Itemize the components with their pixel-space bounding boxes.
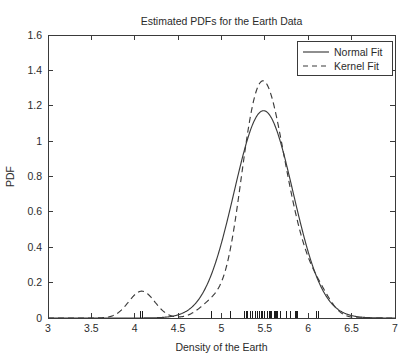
y-tick-label: 0.2 (27, 276, 42, 288)
y-tick-label: 0 (36, 312, 42, 324)
x-tick-label: 5 (219, 322, 225, 334)
y-tick-label: 1.4 (27, 64, 42, 76)
x-tick-label: 4 (132, 322, 138, 334)
legend-label-1: Kernel Fit (334, 60, 379, 72)
y-tick-label: 1.2 (27, 99, 42, 111)
x-tick-label: 3.5 (84, 322, 99, 334)
chart-title: Estimated PDFs for the Earth Data (141, 15, 303, 27)
y-tick-label: 1.6 (27, 29, 42, 41)
y-tick-label: 0.4 (27, 241, 42, 253)
x-tick-label: 5.5 (258, 322, 273, 334)
pdf-plot: 33.544.555.566.5700.20.40.60.811.21.41.6… (0, 0, 416, 361)
x-tick-label: 7 (392, 322, 398, 334)
x-tick-label: 6 (305, 322, 311, 334)
y-tick-label: 1 (36, 135, 42, 147)
y-tick-label: 0.8 (27, 170, 42, 182)
y-tick-label: 0.6 (27, 205, 42, 217)
x-tick-label: 6.5 (344, 322, 359, 334)
y-axis-label: PDF (4, 166, 16, 187)
chart-figure: 33.544.555.566.5700.20.40.60.811.21.41.6… (0, 0, 416, 361)
x-tick-label: 4.5 (171, 322, 186, 334)
legend-label-0: Normal Fit (334, 46, 383, 58)
x-axis-label: Density of the Earth (175, 341, 267, 353)
plot-frame (48, 35, 395, 318)
x-tick-label: 3 (45, 322, 51, 334)
